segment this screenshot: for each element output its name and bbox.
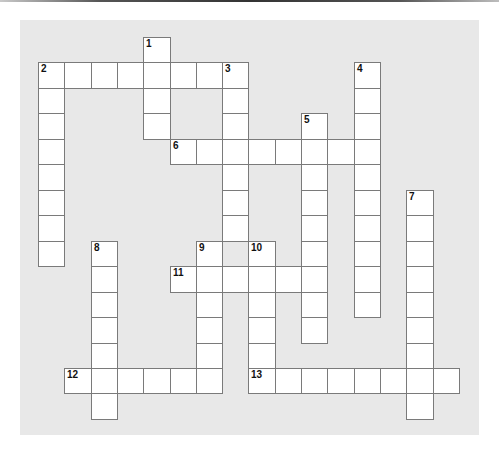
crossword-cell[interactable] — [248, 266, 276, 293]
crossword-cell[interactable] — [38, 139, 65, 165]
crossword-cell[interactable]: 8 — [91, 241, 118, 267]
crossword-cell[interactable] — [354, 139, 381, 165]
crossword-cell[interactable] — [354, 241, 381, 267]
clue-number-label: 13 — [251, 370, 262, 380]
crossword-cell[interactable] — [406, 393, 434, 420]
crossword-cell[interactable] — [222, 139, 249, 165]
crossword-grid: 12345678910131112 — [0, 0, 499, 453]
crossword-cell[interactable] — [406, 215, 434, 242]
crossword-cell[interactable] — [91, 292, 118, 318]
crossword-cell[interactable] — [275, 368, 302, 394]
crossword-cell[interactable] — [91, 266, 118, 293]
crossword-cell[interactable]: 13 — [248, 368, 276, 394]
crossword-cell[interactable]: 3 — [222, 62, 249, 89]
crossword-cell[interactable] — [354, 266, 381, 293]
crossword-cell[interactable] — [170, 62, 197, 89]
crossword-cell[interactable] — [222, 215, 249, 242]
crossword-cell[interactable] — [143, 368, 171, 394]
crossword-cell[interactable] — [354, 113, 381, 140]
crossword-cell[interactable] — [196, 292, 223, 318]
crossword-cell[interactable] — [248, 292, 276, 318]
crossword-cell[interactable] — [406, 241, 434, 267]
crossword-cell[interactable] — [222, 164, 249, 191]
crossword-cell[interactable] — [222, 266, 249, 293]
crossword-cell[interactable] — [196, 368, 223, 394]
crossword-cell[interactable] — [248, 317, 276, 344]
crossword-cell[interactable] — [327, 368, 355, 394]
crossword-cell[interactable]: 1 — [143, 37, 171, 63]
crossword-cell[interactable] — [170, 368, 197, 394]
crossword-cell[interactable] — [143, 62, 171, 89]
crossword-cell[interactable]: 9 — [196, 241, 223, 267]
crossword-cell[interactable] — [327, 139, 355, 165]
crossword-cell[interactable] — [38, 88, 65, 114]
crossword-cell[interactable] — [196, 62, 223, 89]
crossword-cell[interactable] — [301, 266, 328, 293]
crossword-cell[interactable] — [301, 241, 328, 267]
crossword-cell[interactable]: 5 — [301, 113, 328, 140]
clue-number-label: 3 — [225, 64, 231, 74]
crossword-cell[interactable] — [301, 368, 328, 394]
crossword-cell[interactable]: 2 — [38, 62, 65, 89]
crossword-cell[interactable]: 4 — [354, 62, 381, 89]
crossword-cell[interactable] — [91, 317, 118, 344]
crossword-cell[interactable] — [143, 113, 171, 140]
crossword-cell[interactable] — [64, 62, 92, 89]
crossword-cell[interactable] — [38, 190, 65, 216]
crossword-cell[interactable]: 10 — [248, 241, 276, 267]
crossword-cell[interactable] — [406, 317, 434, 344]
crossword-cell[interactable] — [301, 164, 328, 191]
crossword-cell[interactable] — [406, 343, 434, 369]
clue-number-label: 6 — [173, 141, 179, 151]
crossword-cell[interactable] — [301, 317, 328, 344]
clue-number-label: 9 — [199, 243, 205, 253]
crossword-cell[interactable]: 12 — [64, 368, 92, 394]
crossword-cell[interactable] — [354, 190, 381, 216]
crossword-cell[interactable]: 7 — [406, 190, 434, 216]
crossword-cell[interactable]: 11 — [170, 266, 197, 293]
crossword-cell[interactable] — [354, 368, 381, 394]
crossword-cell[interactable] — [222, 190, 249, 216]
crossword-cell[interactable] — [301, 190, 328, 216]
clue-number-label: 11 — [173, 268, 184, 278]
crossword-cell[interactable] — [380, 368, 407, 394]
crossword-cell[interactable] — [354, 164, 381, 191]
crossword-cell[interactable] — [301, 139, 328, 165]
crossword-cell[interactable] — [433, 368, 460, 394]
crossword-cell[interactable] — [91, 368, 118, 394]
crossword-cell[interactable] — [354, 292, 381, 318]
crossword-cell[interactable] — [406, 368, 434, 394]
crossword-cell[interactable] — [222, 88, 249, 114]
crossword-cell[interactable] — [196, 266, 223, 293]
crossword-cell[interactable] — [91, 343, 118, 369]
crossword-cell[interactable] — [248, 343, 276, 369]
crossword-cell[interactable] — [196, 317, 223, 344]
crossword-cell[interactable]: 6 — [170, 139, 197, 165]
crossword-cell[interactable] — [91, 393, 118, 420]
crossword-cell[interactable] — [117, 62, 144, 89]
crossword-cell[interactable] — [354, 215, 381, 242]
crossword-cell[interactable] — [275, 139, 302, 165]
crossword-cell[interactable] — [143, 88, 171, 114]
crossword-cell[interactable] — [38, 164, 65, 191]
clue-number-label: 4 — [357, 64, 363, 74]
crossword-cell[interactable] — [196, 343, 223, 369]
crossword-cell[interactable] — [275, 266, 302, 293]
clue-number-label: 10 — [251, 243, 262, 253]
crossword-cell[interactable] — [117, 368, 144, 394]
clue-number-label: 12 — [67, 370, 78, 380]
crossword-cell[interactable] — [38, 241, 65, 267]
crossword-cell[interactable] — [406, 266, 434, 293]
crossword-cell[interactable] — [222, 113, 249, 140]
clue-number-label: 8 — [94, 243, 100, 253]
clue-number-label: 1 — [146, 39, 152, 49]
crossword-cell[interactable] — [38, 113, 65, 140]
crossword-cell[interactable] — [301, 215, 328, 242]
crossword-cell[interactable] — [91, 62, 118, 89]
crossword-cell[interactable] — [248, 139, 276, 165]
crossword-cell[interactable] — [196, 139, 223, 165]
crossword-cell[interactable] — [406, 292, 434, 318]
crossword-cell[interactable] — [354, 88, 381, 114]
crossword-cell[interactable] — [38, 215, 65, 242]
crossword-cell[interactable] — [301, 292, 328, 318]
